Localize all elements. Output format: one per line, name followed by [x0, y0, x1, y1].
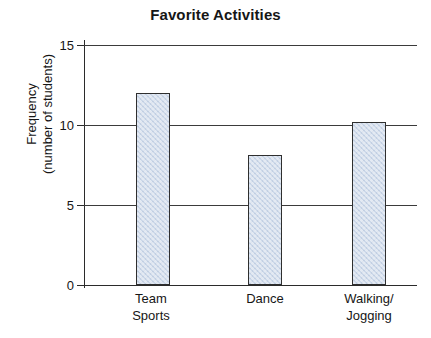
x-category-label-line-1: Team	[96, 290, 206, 307]
bar-dance	[248, 155, 282, 285]
x-category-label-walking-jogging: Walking/ Jogging	[314, 290, 424, 324]
y-tick-label-0: 0	[46, 278, 74, 293]
x-category-label-line-1: Dance	[210, 290, 320, 307]
y-axis-title-line-2: (number of students)	[40, 54, 56, 174]
y-tick-label-10: 10	[46, 118, 74, 133]
y-axis-title-line-1: Frequency	[24, 83, 40, 144]
x-category-label-line-2: Jogging	[314, 307, 424, 324]
bar-team-sports	[136, 93, 170, 285]
x-category-label-dance: Dance	[210, 290, 320, 307]
y-axis-title: Frequency (number of students)	[23, 0, 57, 229]
y-tick-label-5: 5	[46, 198, 74, 213]
chart-title: Favorite Activities	[0, 6, 431, 23]
x-axis-line	[82, 285, 417, 286]
plot-area	[84, 45, 417, 285]
bar-chart-figure: Favorite Activities Frequency (number of…	[0, 0, 431, 338]
y-tick-label-15: 15	[46, 38, 74, 53]
x-category-label-line-1: Walking/	[314, 290, 424, 307]
x-category-label-line-2: Sports	[96, 307, 206, 324]
gridline-15	[84, 45, 417, 46]
bar-walking-jogging	[352, 122, 386, 285]
x-category-label-team-sports: Team Sports	[96, 290, 206, 324]
